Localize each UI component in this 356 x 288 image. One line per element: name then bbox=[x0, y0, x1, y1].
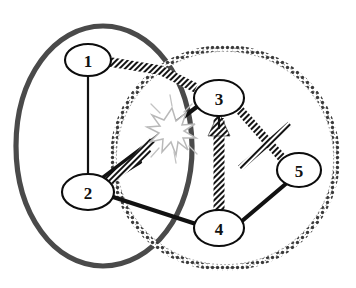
graph-diagram: 1 2 3 4 5 bbox=[0, 0, 356, 288]
node-4-label: 4 bbox=[215, 220, 224, 239]
node-1[interactable]: 1 bbox=[65, 44, 111, 76]
node-4[interactable]: 4 bbox=[194, 210, 244, 246]
edge-group bbox=[88, 62, 290, 224]
node-5[interactable]: 5 bbox=[277, 153, 321, 187]
node-3-label: 3 bbox=[215, 90, 224, 109]
diagram-canvas: 1 2 3 4 5 bbox=[0, 0, 356, 288]
edge-4-5 bbox=[242, 182, 288, 221]
node-3[interactable]: 3 bbox=[194, 80, 244, 116]
node-1-label: 1 bbox=[84, 52, 93, 71]
node-2-label: 2 bbox=[84, 184, 93, 203]
node-5-label: 5 bbox=[295, 162, 304, 181]
burst-ray-sw bbox=[151, 148, 159, 157]
burst-ray-n bbox=[170, 95, 172, 106]
node-2[interactable]: 2 bbox=[62, 174, 114, 210]
burst-ray-nw bbox=[151, 104, 160, 113]
